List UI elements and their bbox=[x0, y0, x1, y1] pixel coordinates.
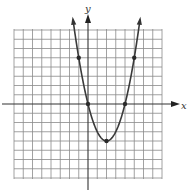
data-point bbox=[77, 56, 81, 60]
axes bbox=[2, 14, 180, 190]
y-axis-label: y bbox=[84, 3, 91, 14]
x-axis-label: x bbox=[181, 100, 187, 111]
data-point bbox=[123, 102, 127, 106]
data-point bbox=[132, 56, 136, 60]
data-point bbox=[86, 102, 90, 106]
y-axis-arrow bbox=[85, 14, 91, 23]
parabola-graph: y x bbox=[0, 0, 190, 194]
data-point bbox=[104, 139, 108, 143]
curve-arrow-head bbox=[137, 17, 142, 25]
x-axis-arrow bbox=[171, 101, 180, 107]
curve-arrow-head bbox=[71, 17, 76, 25]
